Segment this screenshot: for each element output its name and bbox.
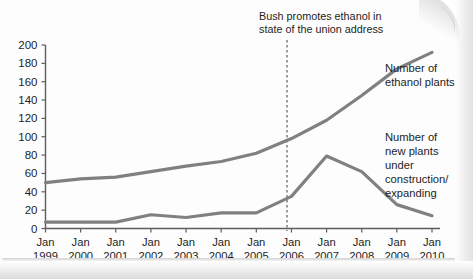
x-axis-tick-label: Jan <box>142 236 160 248</box>
page-edge-bottom <box>0 261 473 279</box>
x-axis-tick-label: 2010 <box>420 250 445 259</box>
x-axis-tick-label: Jan <box>107 236 125 248</box>
series-label-ethanol-plants: Number of ethanol plants <box>385 62 455 88</box>
series-label-new-plants-line-5: expanding <box>385 187 437 199</box>
annotation-text-line-1: Bush promotes ethanol in <box>259 10 381 22</box>
series-label-new-plants-line-3: under <box>385 159 414 171</box>
y-axis-tick-label: 0 <box>31 223 37 235</box>
x-axis-tick-label: Jan <box>212 236 230 248</box>
x-axis-tick-label: Jan <box>423 236 441 248</box>
x-axis-tick-label: 2008 <box>349 250 374 259</box>
x-axis-tick-label: 2003 <box>174 250 199 259</box>
x-axis-tick-label: Jan <box>388 236 406 248</box>
x-axis-tick-label: Jan <box>72 236 90 248</box>
x-axis-tick-labels: Jan1999Jan2000Jan2001Jan2002Jan2003Jan20… <box>33 236 444 259</box>
ethanol-plants-line-chart: 020406080100120140160180200 Jan1999Jan20… <box>0 0 455 258</box>
x-axis-tick-label: Jan <box>318 236 336 248</box>
y-axis-tick-label: 180 <box>18 57 37 69</box>
x-axis-tick-label: 2004 <box>209 250 234 259</box>
y-axis-tick-label: 20 <box>25 204 38 216</box>
y-axis-tick-label: 140 <box>18 94 37 106</box>
y-axis-tick-label: 100 <box>18 131 37 143</box>
chart-page: 020406080100120140160180200 Jan1999Jan20… <box>0 0 473 279</box>
series-line-new-plants <box>46 156 433 222</box>
series-label-ethanol-plants-line-2: ethanol plants <box>385 76 455 88</box>
x-axis-tick-label: 2001 <box>103 250 128 259</box>
x-axis-tick-label: 2009 <box>384 250 409 259</box>
series-label-new-plants-line-4: construction/ <box>385 173 449 185</box>
x-axis-tick-label: Jan <box>247 236 265 248</box>
y-axis-tick-label: 120 <box>18 112 37 124</box>
x-axis-tick-label: 2007 <box>314 250 339 259</box>
series-label-ethanol-plants-line-1: Number of <box>385 62 438 74</box>
series-label-new-plants-line-1: Number of <box>385 131 438 143</box>
series-label-new-plants-line-2: new plants <box>385 145 439 157</box>
x-axis-tick-label: Jan <box>282 236 300 248</box>
y-axis-tick-label: 80 <box>25 149 38 161</box>
y-axis-tick-label: 40 <box>25 186 38 198</box>
y-axis-tick-label: 200 <box>18 39 37 51</box>
x-axis-tick-label: 2006 <box>279 250 304 259</box>
x-axis-tick-label: Jan <box>177 236 195 248</box>
annotation-text-line-2: state of the union address <box>259 23 384 35</box>
y-axis-tick-labels: 020406080100120140160180200 <box>18 39 37 235</box>
x-axis-tick-label: 1999 <box>33 250 58 259</box>
series-line-ethanol-plants <box>46 52 433 182</box>
y-axis-tick-label: 60 <box>25 167 38 179</box>
x-axis-tick-label: 2000 <box>68 250 93 259</box>
y-axis-tick-label: 160 <box>18 76 37 88</box>
series-label-new-plants: Number of new plants under construction/… <box>385 131 449 199</box>
x-axis-tick-label: Jan <box>36 236 54 248</box>
x-axis-tick-label: 2005 <box>244 250 269 259</box>
chart-svg: 020406080100120140160180200 Jan1999Jan20… <box>0 0 455 258</box>
x-axis-tick-label: Jan <box>353 236 371 248</box>
x-axis-tick-label: 2002 <box>138 250 163 259</box>
